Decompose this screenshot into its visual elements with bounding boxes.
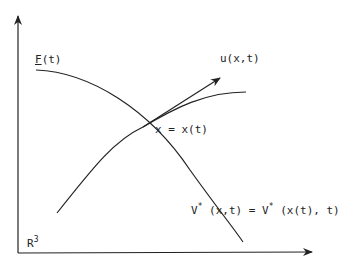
tangent-vector-u [143, 78, 220, 127]
label-x-eq: x = x(t) [155, 124, 208, 135]
label-R3: R3 [27, 236, 38, 249]
label-F: F(t) [35, 54, 62, 65]
label-V-equation: V* (x,t) = V* (x(t), t) [191, 203, 340, 216]
horizontal-axis [18, 252, 312, 253]
label-u: u(x,t) [220, 53, 260, 64]
curve-trajectory [57, 92, 246, 213]
